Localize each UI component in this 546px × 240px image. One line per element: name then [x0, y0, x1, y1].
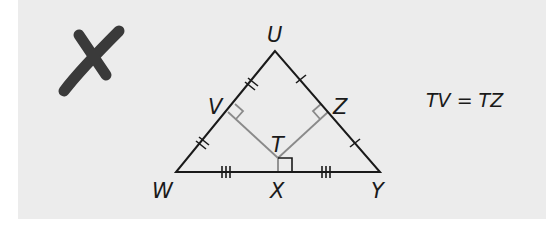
vertex-label-x: X	[270, 181, 284, 202]
vertex-label-t: T	[271, 135, 284, 156]
vertex-label-v: V	[208, 97, 222, 118]
vertex-label-y: Y	[371, 181, 384, 202]
x-mark-icon	[64, 31, 119, 91]
vertex-label-z: Z	[333, 97, 347, 118]
vertex-label-u: U	[267, 25, 282, 46]
equation-statement: TV = TZ	[426, 89, 503, 111]
vertex-label-w: W	[152, 181, 173, 202]
